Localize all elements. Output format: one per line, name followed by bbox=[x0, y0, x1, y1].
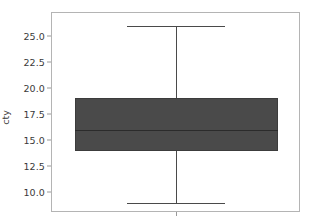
y-tick-label: 20.0 bbox=[23, 83, 45, 94]
y-tick-label: 12.5 bbox=[23, 161, 45, 172]
x-tick-mark bbox=[176, 212, 177, 216]
y-tick-label: 10.0 bbox=[23, 187, 45, 198]
y-tick-label: 15.0 bbox=[23, 135, 45, 146]
y-axis-label: cty bbox=[0, 110, 11, 125]
y-tick-label: 22.5 bbox=[23, 57, 45, 68]
boxplot-figure: 25.0 22.5 20.0 17.5 15.0 12.5 10.0 cty bbox=[0, 0, 314, 223]
plot-area bbox=[51, 12, 300, 212]
y-tick-label: 17.5 bbox=[23, 109, 45, 120]
y-tick-label: 25.0 bbox=[23, 30, 45, 41]
